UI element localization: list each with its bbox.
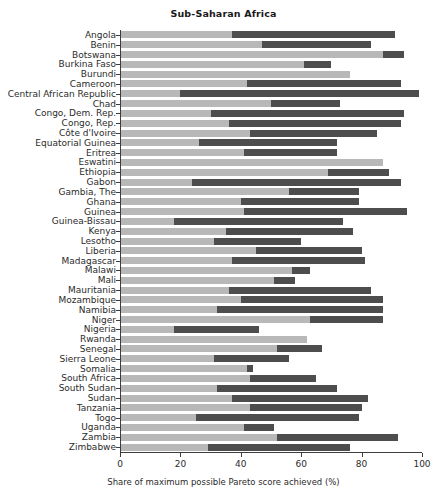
- y-axis-tick: [116, 84, 120, 85]
- bar-segment-dark: [328, 169, 388, 176]
- bar-segment-light: [120, 31, 232, 38]
- bar-row: [120, 296, 422, 303]
- category-label: Equatorial Guinea: [0, 138, 116, 148]
- bar-segment-light: [120, 208, 244, 215]
- category-label: Congo, Rep.: [0, 118, 116, 128]
- bar-row: [120, 365, 422, 372]
- bar-segment-light: [120, 218, 174, 225]
- bar-segment-dark: [229, 120, 401, 127]
- bar-segment-light: [120, 316, 310, 323]
- bar-row: [120, 41, 422, 48]
- y-axis-tick: [116, 329, 120, 330]
- horizontal-stacked-bar-chart: Sub-Saharan Africa AngolaBeninBotswanaBu…: [0, 0, 447, 497]
- bar-row: [120, 336, 422, 343]
- bar-row: [120, 267, 422, 274]
- bar-segment-light: [120, 444, 208, 451]
- category-label: Malawi: [0, 265, 116, 275]
- bar-segment-light: [120, 110, 211, 117]
- y-axis-tick: [116, 427, 120, 428]
- category-label: Burkina Faso: [0, 59, 116, 69]
- bar-segment-light: [120, 80, 247, 87]
- y-axis-tick: [116, 261, 120, 262]
- bar-row: [120, 100, 422, 107]
- y-axis-tick: [116, 418, 120, 419]
- y-axis-tick: [116, 162, 120, 163]
- bar-segment-dark: [241, 198, 359, 205]
- category-label: South Africa: [0, 373, 116, 383]
- bar-row: [120, 355, 422, 362]
- bar-row: [120, 375, 422, 382]
- x-axis-tick-label: 80: [356, 459, 367, 469]
- bar-segment-dark: [274, 277, 295, 284]
- y-axis-tick: [116, 212, 120, 213]
- bar-row: [120, 424, 422, 431]
- category-label: Namibia: [0, 305, 116, 315]
- category-label: Botswana: [0, 50, 116, 60]
- y-axis-tick: [116, 104, 120, 105]
- bar-segment-dark: [217, 385, 338, 392]
- bar-segment-dark: [250, 130, 377, 137]
- y-axis-tick: [116, 408, 120, 409]
- bar-row: [120, 130, 422, 137]
- bar-row: [120, 404, 422, 411]
- bar-segment-light: [120, 169, 328, 176]
- category-label: Rwanda: [0, 334, 116, 344]
- bar-segment-dark: [199, 139, 338, 146]
- bar-segment-light: [120, 277, 274, 284]
- bar-row: [120, 71, 422, 78]
- category-label: Liberia: [0, 246, 116, 256]
- bar-segment-dark: [247, 365, 253, 372]
- y-axis-tick: [116, 290, 120, 291]
- bar-row: [120, 326, 422, 333]
- bar-segment-dark: [232, 31, 395, 38]
- bar-row: [120, 345, 422, 352]
- bar-segment-dark: [211, 110, 404, 117]
- x-axis-line: [120, 452, 422, 453]
- bar-row: [120, 257, 422, 264]
- bar-segment-dark: [292, 267, 310, 274]
- bar-row: [120, 208, 422, 215]
- category-label: Gabon: [0, 177, 116, 187]
- y-axis-tick: [116, 202, 120, 203]
- category-label: Senegal: [0, 344, 116, 354]
- y-axis-tick: [116, 339, 120, 340]
- bar-segment-dark: [192, 179, 400, 186]
- bar-row: [120, 149, 422, 156]
- bar-segment-light: [120, 188, 289, 195]
- y-axis-tick: [116, 192, 120, 193]
- y-axis-line: [120, 30, 121, 452]
- x-axis-tick: [301, 453, 302, 457]
- y-axis-tick: [116, 398, 120, 399]
- y-axis-tick: [116, 182, 120, 183]
- x-axis-tick-label: 0: [117, 459, 123, 469]
- y-axis-tick: [116, 153, 120, 154]
- bar-segment-light: [120, 130, 250, 137]
- bar-segment-light: [120, 306, 217, 313]
- category-label: Tanzania: [0, 403, 116, 413]
- bar-segment-light: [120, 71, 350, 78]
- bar-segment-light: [120, 228, 226, 235]
- y-axis-tick: [116, 251, 120, 252]
- bar-row: [120, 198, 422, 205]
- y-axis-tick: [116, 310, 120, 311]
- bar-segment-dark: [277, 345, 322, 352]
- bar-segment-light: [120, 345, 277, 352]
- category-label: Cameroon: [0, 79, 116, 89]
- bar-row: [120, 228, 422, 235]
- category-label: Mali: [0, 275, 116, 285]
- y-axis-tick: [116, 221, 120, 222]
- bar-segment-light: [120, 385, 217, 392]
- y-axis-tick: [116, 369, 120, 370]
- y-axis-tick: [116, 280, 120, 281]
- bar-segment-dark: [196, 414, 359, 421]
- y-axis-tick: [116, 133, 120, 134]
- bar-segment-dark: [208, 444, 350, 451]
- bar-segment-light: [120, 100, 271, 107]
- category-label: Angola: [0, 30, 116, 40]
- bar-segment-light: [120, 149, 244, 156]
- category-label: Madagascar: [0, 256, 116, 266]
- y-axis-tick: [116, 231, 120, 232]
- bar-row: [120, 238, 422, 245]
- x-axis-tick-label: 20: [175, 459, 186, 469]
- bar-segment-light: [120, 41, 262, 48]
